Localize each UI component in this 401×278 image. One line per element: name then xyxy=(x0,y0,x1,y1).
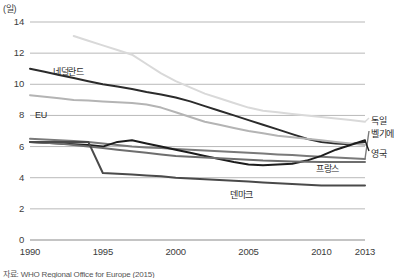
line-chart-canvas xyxy=(0,0,401,278)
source-note: 자료: WHO Regional Office for Europe (2015… xyxy=(3,268,155,278)
x-tick-1995: 1995 xyxy=(83,246,123,257)
y-tick-6: 6 xyxy=(2,141,24,152)
label-leader-lines xyxy=(365,118,369,159)
x-tick-2013: 2013 xyxy=(345,246,385,257)
series-line-germany xyxy=(74,36,365,122)
y-tick-14: 14 xyxy=(2,16,24,27)
x-tick-1990: 1990 xyxy=(10,246,50,257)
gridlines xyxy=(30,22,365,240)
y-tick-2: 2 xyxy=(2,203,24,214)
series-label-netherlands: 네덜란드 xyxy=(53,65,84,78)
series-line-netherlands xyxy=(30,69,365,145)
y-tick-4: 4 xyxy=(2,172,24,183)
y-tick-0: 0 xyxy=(2,234,24,245)
y-tick-12: 12 xyxy=(2,47,24,58)
leader-line-germany xyxy=(365,118,369,122)
series-label-belgium: 벨기에 xyxy=(371,127,394,140)
series-line-denmark xyxy=(30,142,365,186)
y-tick-8: 8 xyxy=(2,109,24,120)
series-line-france xyxy=(30,142,365,162)
series-line-european-union xyxy=(30,95,365,145)
series-label-germany: 독일 xyxy=(371,114,386,127)
x-tick-2000: 2000 xyxy=(156,246,196,257)
y-tick-10: 10 xyxy=(2,78,24,89)
x-tick-2005: 2005 xyxy=(228,246,268,257)
series-label-france: 프랑스 xyxy=(316,162,339,175)
series-label-denmark: 덴마크 xyxy=(230,188,253,201)
series-label-eu: EU xyxy=(35,110,47,120)
chart-figure: (일) 02468101214 199019952000200520102013… xyxy=(0,0,401,278)
series-lines xyxy=(30,36,365,186)
x-tick-2010: 2010 xyxy=(301,246,341,257)
series-label-uk: 영국 xyxy=(371,147,386,160)
